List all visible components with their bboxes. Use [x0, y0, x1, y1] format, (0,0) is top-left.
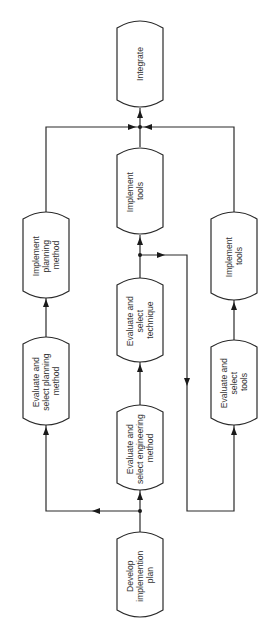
node-evaluate-select-engineering-method: Evaluate and select engineering method	[117, 405, 163, 490]
arrow-left-icon	[92, 508, 100, 514]
node-label: select engineering	[135, 414, 145, 484]
junction-bottom	[138, 509, 142, 513]
node-label: Evaluate and	[219, 358, 229, 408]
arrow-up-icon	[43, 427, 49, 435]
flowchart: Integrate Implement tools Implement plan…	[0, 0, 270, 634]
node-integrate: Integrate	[117, 21, 163, 107]
node-label: Evaluate and	[31, 357, 41, 407]
node-label: select	[135, 309, 145, 332]
node-label: plan	[145, 567, 155, 583]
arrow-left-icon	[144, 124, 152, 130]
node-label: method	[51, 366, 61, 395]
arrow-up-icon	[137, 110, 143, 118]
junction-middle	[138, 253, 142, 257]
arrow-right-icon	[157, 252, 165, 258]
arrow-up-icon	[231, 427, 237, 435]
arrow-right-icon	[128, 124, 136, 130]
node-implement-tools: Implement tools	[211, 212, 257, 300]
node-label: Evaluate and	[125, 296, 135, 346]
node-label: Evaluate and	[125, 424, 135, 474]
arrow-down-icon	[184, 378, 190, 386]
node-label: implemention	[135, 550, 145, 601]
node-develop-implementation-plan: Develop implemention plan	[117, 532, 163, 617]
arrow-up-icon	[43, 299, 49, 307]
node-label: Develop	[125, 560, 135, 592]
arrow-up-icon	[137, 237, 143, 245]
arrow-up-icon	[137, 364, 143, 372]
node-label: tools	[135, 182, 145, 200]
node-label: tools	[234, 247, 244, 265]
arrow-up-icon	[137, 492, 143, 500]
node-implement-method-technique: Implement tools	[117, 148, 163, 234]
svg-text:Integrate: Integrate	[135, 47, 145, 81]
node-evaluate-select-tools: Evaluate and select tools	[211, 340, 257, 425]
junction-top	[138, 125, 142, 129]
node-label: Implement	[224, 237, 234, 278]
node-implement-planning-method: Implement planning method	[23, 212, 69, 298]
arrow-up-icon	[231, 302, 237, 310]
node-label: tools	[239, 373, 249, 391]
node-label: Implement	[31, 236, 41, 277]
node-evaluate-select-planning-method: Evaluate and select planning method	[23, 337, 69, 425]
node-label: Implement	[125, 172, 135, 213]
node-label: method	[51, 240, 61, 269]
node-label: Integrate	[135, 47, 145, 81]
node-evaluate-select-technique: Evaluate and select technique	[117, 278, 163, 362]
node-label: method	[145, 433, 155, 462]
node-label: select	[229, 371, 239, 394]
node-label: select planning	[41, 353, 51, 411]
node-label: planning	[41, 240, 51, 273]
node-label: technique	[145, 301, 155, 338]
